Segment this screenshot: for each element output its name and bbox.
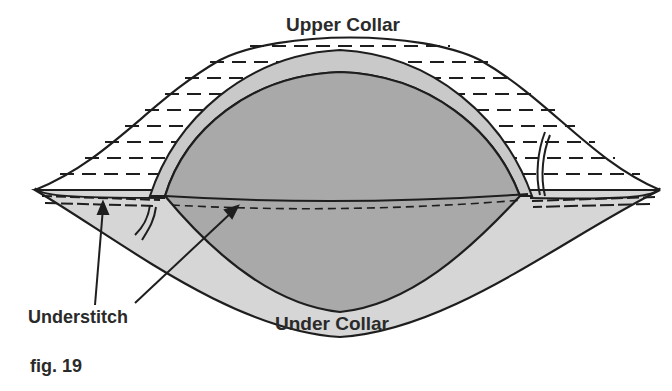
figure-caption: fig. 19 xyxy=(30,356,82,377)
understitch-label: Understitch xyxy=(28,307,128,328)
upper-collar-label: Upper Collar xyxy=(286,14,400,36)
under-collar-label: Under Collar xyxy=(275,313,389,335)
collar-diagram: Upper Collar Under Collar Understitch fi… xyxy=(0,0,672,391)
